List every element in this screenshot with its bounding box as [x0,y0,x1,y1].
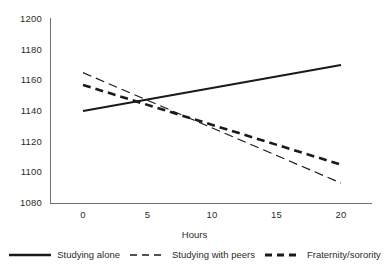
legend-item-fraternity-sorority: Fraternity/sorority [264,249,381,260]
x-tick-label-10: 10 [200,209,224,220]
x-tick-label-0: 0 [71,209,95,220]
legend-swatch-dashed-thin-icon [129,250,167,260]
legend-label-fraternity-sorority: Fraternity/sorority [307,249,381,260]
series-line-fraternity-sorority [83,85,341,165]
legend-item-studying-with-peers: Studying with peers [129,249,255,260]
x-tick-label-15: 15 [265,209,289,220]
chart-legend: Studying alone Studying with peers Frate… [0,249,389,260]
legend-swatch-solid-icon [8,250,52,260]
legend-label-studying-alone: Studying alone [57,249,120,260]
legend-label-studying-with-peers: Studying with peers [172,249,255,260]
series-line-studying-with-peers [83,73,341,183]
line-chart: 1200 1180 1160 1140 1120 1100 1080 0 5 1… [0,0,389,271]
y-tick-label-1200: 1200 [6,13,42,24]
series-line-studying-alone [83,65,341,111]
x-tick-label-20: 20 [329,209,353,220]
y-tick-label-1180: 1180 [6,44,42,55]
x-tick-label-5: 5 [136,209,160,220]
legend-item-studying-alone: Studying alone [8,249,120,260]
y-tick-label-1160: 1160 [6,74,42,85]
y-tick-label-1080: 1080 [6,197,42,208]
legend-swatch-dashed-thick-icon [264,250,302,260]
y-tick-label-1120: 1120 [6,136,42,147]
y-tick-label-1100: 1100 [6,166,42,177]
x-axis-title: Hours [0,229,389,240]
y-tick-label-1140: 1140 [6,105,42,116]
